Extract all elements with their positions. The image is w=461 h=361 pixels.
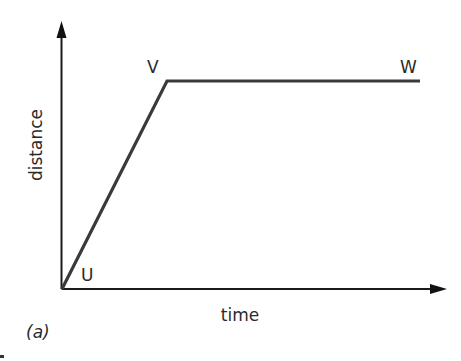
point-label-v: V <box>147 57 159 77</box>
y-axis-arrow-icon <box>57 21 67 38</box>
y-axis-label: distance <box>26 109 46 181</box>
x-axis-arrow-icon <box>430 284 447 294</box>
point-label-u: U <box>81 265 93 285</box>
x-axis-label: time <box>221 305 259 325</box>
distance-time-graph: U V W distance time (a) <box>0 0 461 361</box>
point-label-w: W <box>400 57 417 77</box>
distance-time-line <box>62 81 420 289</box>
y-axis <box>57 21 67 289</box>
panel-label: (a) <box>26 322 50 342</box>
corner-mark <box>0 355 4 358</box>
x-axis <box>62 284 448 294</box>
